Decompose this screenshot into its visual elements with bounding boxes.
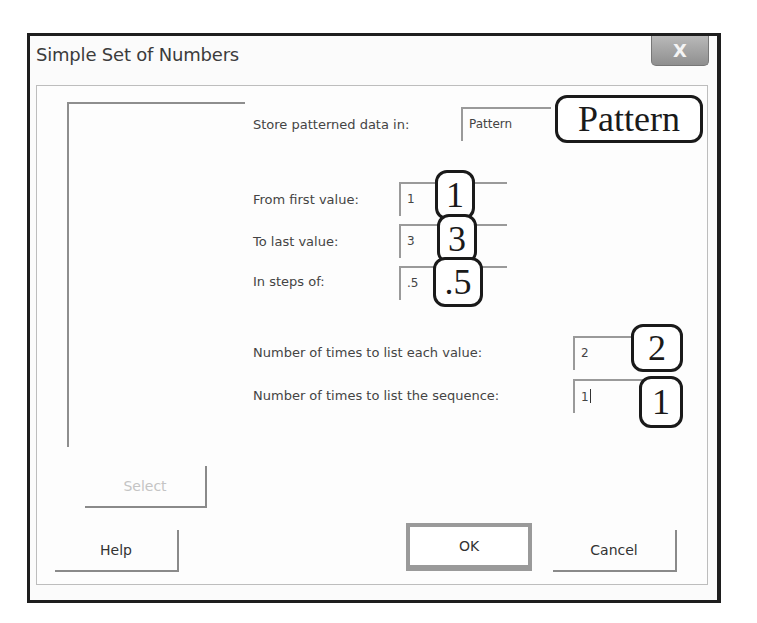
text-caret bbox=[590, 389, 591, 403]
select-button[interactable]: Select bbox=[85, 466, 207, 508]
annotation-callout-times-sequence: 1 bbox=[639, 376, 683, 428]
variable-list-box[interactable] bbox=[67, 102, 245, 447]
dialog-title: Simple Set of Numbers bbox=[36, 44, 239, 65]
annotation-callout-pattern: Pattern bbox=[555, 95, 703, 143]
dialog-body: Store patterned data in: Pattern Pattern… bbox=[36, 85, 708, 585]
close-icon: X bbox=[673, 40, 687, 61]
times-each-label: Number of times to list each value: bbox=[253, 345, 482, 360]
times-sequence-label: Number of times to list the sequence: bbox=[253, 388, 499, 403]
store-input[interactable]: Pattern bbox=[461, 107, 551, 141]
help-button[interactable]: Help bbox=[55, 530, 179, 572]
first-value-label: From first value: bbox=[253, 192, 359, 207]
close-button[interactable]: X bbox=[651, 36, 709, 66]
store-label: Store patterned data in: bbox=[253, 117, 409, 132]
cancel-button[interactable]: Cancel bbox=[553, 530, 677, 572]
ok-button[interactable]: OK bbox=[406, 523, 532, 571]
times-sequence-input[interactable]: 1 bbox=[573, 379, 645, 413]
annotation-callout-step: .5 bbox=[433, 257, 483, 307]
simple-set-of-numbers-dialog: Simple Set of Numbers X Store patterned … bbox=[27, 33, 721, 603]
times-each-input[interactable]: 2 bbox=[573, 336, 635, 370]
last-value-label: To last value: bbox=[253, 234, 338, 249]
times-sequence-value: 1 bbox=[581, 390, 589, 404]
annotation-callout-first-value: 1 bbox=[435, 170, 475, 220]
step-label: In steps of: bbox=[253, 274, 325, 289]
title-bar: Simple Set of Numbers X bbox=[30, 36, 717, 76]
annotation-callout-times-each: 2 bbox=[631, 324, 683, 372]
